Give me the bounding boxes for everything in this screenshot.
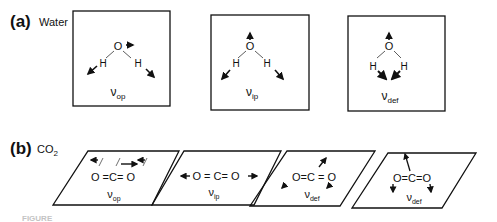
svg-text:H: H <box>99 58 106 69</box>
svg-text:H: H <box>232 58 239 69</box>
svg-text:O=C=O: O=C=O <box>393 172 431 184</box>
svg-text:νip: νip <box>246 85 259 101</box>
figure-caption: FIGURE <box>22 214 52 222</box>
co2-def-box-1: O=C = O νdef <box>250 151 375 206</box>
svg-text:νop: νop <box>107 188 120 203</box>
svg-text:H: H <box>369 61 376 72</box>
svg-text:H: H <box>134 58 141 69</box>
co2-op-box: O =C= O νop <box>53 151 179 205</box>
co2-def-box-2: O=C=O νdef <box>352 153 476 208</box>
svg-text:νdef: νdef <box>381 89 399 105</box>
svg-text:O = C= O: O = C= O <box>192 170 240 182</box>
svg-text:O: O <box>246 40 255 52</box>
svg-text:H: H <box>400 61 407 72</box>
svg-text:νip: νip <box>209 186 220 201</box>
svg-text:H: H <box>263 58 270 69</box>
svg-text:O: O <box>385 40 394 52</box>
svg-text:O: O <box>114 40 123 52</box>
water-op-box: O H H νop <box>73 11 170 106</box>
svg-text:νop: νop <box>111 85 126 101</box>
co2-ip-box: O = C= O νip <box>152 151 281 205</box>
svg-text:νdef: νdef <box>406 191 421 205</box>
water-ip-box: O H H νip <box>211 15 309 110</box>
svg-text:O =C= O: O =C= O <box>91 171 135 183</box>
svg-text:νdef: νdef <box>304 188 319 202</box>
svg-text:O=C = O: O=C = O <box>292 171 336 183</box>
vibration-modes-diagram: O H H νop O H H νip O <box>0 0 497 222</box>
water-def-box: O H H νdef <box>348 16 445 111</box>
